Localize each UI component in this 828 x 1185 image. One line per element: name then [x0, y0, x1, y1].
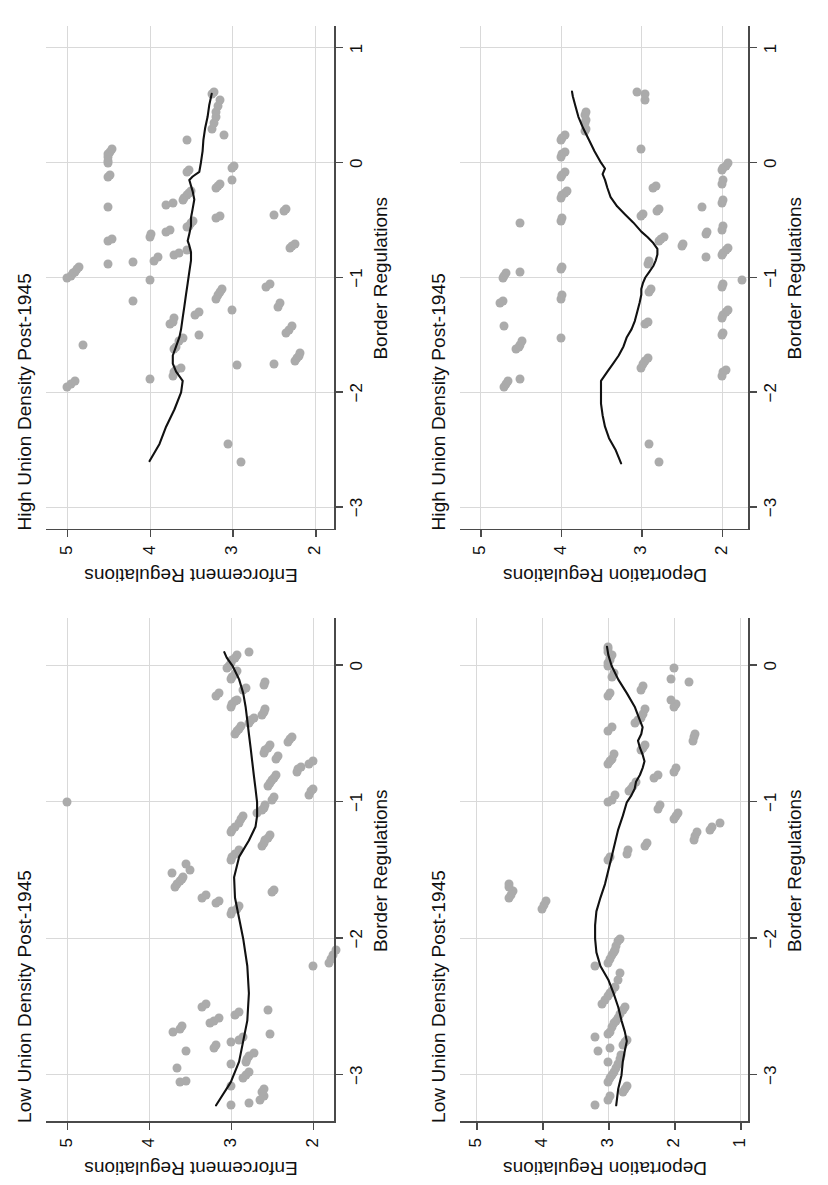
x-tick-label: 0: [761, 661, 781, 670]
y-tick-label: 4: [139, 1138, 159, 1147]
y-tick: [480, 531, 481, 538]
x-tick: [750, 1074, 757, 1075]
x-tick: [336, 391, 343, 392]
x-tick: [336, 937, 343, 938]
y-axis-line: [46, 529, 336, 531]
lowess-fit-line: [460, 619, 750, 1124]
x-tick-label: −1: [347, 268, 367, 287]
y-tick: [561, 531, 562, 538]
x-tick-label: −2: [761, 929, 781, 948]
x-tick: [336, 801, 343, 802]
y-tick-label: 3: [631, 546, 651, 555]
y-tick: [608, 1123, 609, 1130]
x-axis-title: Border Regulations: [784, 619, 806, 1124]
x-tick: [336, 664, 343, 665]
y-axis-label-wrap: Enforcement Regulations: [46, 565, 336, 587]
y-tick: [67, 1123, 68, 1130]
x-axis-title: Border Regulations: [370, 619, 392, 1124]
y-axis-line: [460, 529, 750, 531]
x-tick-label: −3: [761, 1066, 781, 1085]
y-tick: [231, 1123, 232, 1130]
x-axis-line: [748, 619, 750, 1124]
lowess-fit-line: [46, 619, 336, 1124]
x-tick: [750, 47, 757, 48]
y-axis-label-wrap: Deportation Regulations: [460, 565, 750, 587]
y-tick-label: 3: [221, 1138, 241, 1147]
y-tick-label: 3: [598, 1138, 618, 1147]
y-axis-line: [46, 1121, 336, 1123]
plot-area: −3−2−1012345: [460, 26, 750, 531]
y-tick: [740, 1123, 741, 1130]
x-tick: [750, 277, 757, 278]
y-tick-label: 2: [664, 1138, 684, 1147]
y-tick-label: 5: [470, 546, 490, 555]
x-tick: [336, 1074, 343, 1075]
y-axis-line: [460, 1121, 750, 1123]
x-tick: [336, 47, 343, 48]
y-tick: [722, 531, 723, 538]
y-tick-label: 2: [712, 546, 732, 555]
panel-title: High Union Density Post-1945: [14, 273, 36, 530]
x-tick: [750, 664, 757, 665]
y-tick-label: 1: [730, 1138, 750, 1147]
y-tick: [67, 531, 68, 538]
x-tick-label: −2: [761, 383, 781, 402]
x-tick: [750, 937, 757, 938]
plot-area: −3−2−102345: [46, 619, 336, 1124]
y-axis-label-wrap: Deportation Regulations: [460, 1157, 750, 1179]
panel-low-deportation: Low Union Density Post-1945 Deportation …: [414, 593, 828, 1185]
x-tick-label: −1: [761, 268, 781, 287]
x-tick: [750, 801, 757, 802]
panel-title: Low Union Density Post-1945: [428, 870, 450, 1123]
y-tick: [313, 1123, 314, 1130]
plot-area: −3−2−1012345: [460, 619, 750, 1124]
plot-area: −3−2−1012345: [46, 26, 336, 531]
y-axis-title: Deportation Regulations: [503, 565, 707, 587]
x-axis-line: [334, 26, 336, 531]
x-tick-label: −2: [347, 929, 367, 948]
x-tick-label: 0: [347, 661, 367, 670]
panel-grid: Low Union Density Post-1945 Enforcement …: [0, 0, 828, 1185]
x-tick-label: −3: [347, 498, 367, 517]
x-axis-title: Border Regulations: [370, 26, 392, 531]
x-axis-title: Border Regulations: [784, 26, 806, 531]
figure-canvas: Low Union Density Post-1945 Enforcement …: [0, 0, 828, 1185]
x-tick-label: −1: [761, 793, 781, 812]
y-axis-title: Enforcement Regulations: [84, 565, 297, 587]
x-tick-label: 1: [761, 44, 781, 53]
y-axis-title: Enforcement Regulations: [84, 1157, 297, 1179]
lowess-fit-line: [46, 26, 336, 531]
y-tick: [476, 1123, 477, 1130]
panel-title: Low Union Density Post-1945: [14, 870, 36, 1123]
panel-title: High Union Density Post-1945: [428, 273, 450, 530]
y-tick: [232, 531, 233, 538]
lowess-fit-line: [460, 26, 750, 531]
x-tick-label: −2: [347, 383, 367, 402]
y-axis-title: Deportation Regulations: [503, 1157, 707, 1179]
x-tick-label: −1: [347, 793, 367, 812]
panel-high-deportation: High Union Density Post-1945 Deportation…: [414, 0, 828, 593]
y-tick: [315, 531, 316, 538]
x-tick: [750, 391, 757, 392]
x-tick-label: −3: [347, 1066, 367, 1085]
x-tick: [336, 277, 343, 278]
y-tick: [641, 531, 642, 538]
panel-high-enforcement: High Union Density Post-1945 Enforcement…: [0, 0, 414, 593]
y-tick: [149, 1123, 150, 1130]
x-tick-label: −3: [761, 498, 781, 517]
y-tick-label: 2: [303, 1138, 323, 1147]
x-axis-line: [748, 26, 750, 531]
x-tick: [336, 506, 343, 507]
y-tick-label: 5: [57, 1138, 77, 1147]
x-tick-label: 0: [347, 159, 367, 168]
y-tick-label: 5: [466, 1138, 486, 1147]
y-axis-label-wrap: Enforcement Regulations: [46, 1157, 336, 1179]
y-tick-label: 5: [57, 546, 77, 555]
y-tick-label: 3: [222, 546, 242, 555]
y-tick: [542, 1123, 543, 1130]
x-tick-label: 1: [347, 44, 367, 53]
y-tick-label: 4: [140, 546, 160, 555]
x-axis-line: [334, 619, 336, 1124]
x-tick: [336, 162, 343, 163]
x-tick: [750, 162, 757, 163]
